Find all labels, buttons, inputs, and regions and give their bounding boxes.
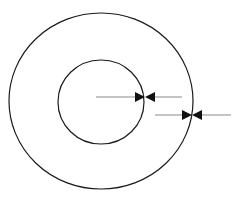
arrowhead-left-icon: [192, 110, 202, 120]
arrowhead-left-icon: [145, 92, 155, 102]
inner-radius-arrow: [96, 92, 182, 102]
outer-radius-arrow: [155, 110, 231, 120]
inner-circle: [58, 60, 144, 144]
concentric-circles-diagram: [0, 0, 242, 200]
arrowhead-right-icon: [182, 110, 192, 120]
outer-circle: [9, 13, 193, 189]
